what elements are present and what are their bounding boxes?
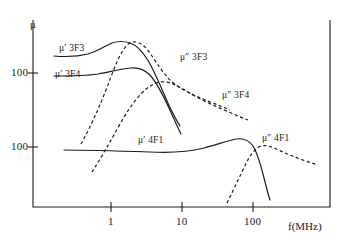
curve-label-mu-prime-4f1: μ′ 4F1 (138, 136, 164, 146)
curve-label-mu-prime-3f4: μ′ 3F4 (55, 70, 81, 80)
x-tick-label-100: 100 (244, 216, 261, 227)
y-axis-title: μ (30, 19, 36, 30)
curve-label-mu-prime-3f3: μ′ 3F3 (59, 44, 85, 54)
curve-mu-dprime-3f3 (81, 42, 230, 144)
x-axis-unit: (MHz) (292, 220, 322, 232)
x-tick-label-1: 1 (108, 216, 114, 227)
y-tick-label-upper: 100 (11, 67, 28, 78)
x-axis-title: f(MHz) (288, 221, 322, 232)
y-tick-label-lower: 100 (11, 141, 28, 152)
curve-mu-dprime-4f1 (227, 146, 318, 203)
curve-mu-prime-3f3 (54, 42, 180, 127)
permeability-spectrum-figure: μ 100 100 1 10 100 f(MHz) μ′ 3F3 μ′ 3F4 … (0, 0, 342, 243)
curve-label-mu-dprime-4f1: μ″ 4F1 (262, 134, 289, 144)
curve-mu-prime-4f1 (64, 139, 270, 200)
plot-canvas (0, 0, 342, 243)
curve-label-mu-dprime-3f3: μ″ 3F3 (180, 53, 207, 63)
curve-label-mu-dprime-3f4: μ″ 3F4 (222, 91, 249, 101)
x-tick-label-10: 10 (176, 216, 187, 227)
